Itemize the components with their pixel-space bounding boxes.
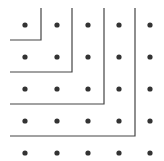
dot-r3-c2 (54, 86, 59, 91)
dot-r2-c2 (54, 54, 59, 59)
dot-r4-c4 (116, 118, 121, 123)
dot-r5-c4 (116, 150, 121, 155)
dot-r1-c2 (54, 22, 59, 27)
dot-r2-c3 (85, 54, 90, 59)
dot-r4-c1 (22, 118, 27, 123)
dot-r5-c2 (54, 150, 59, 155)
dot-r2-c5 (147, 54, 152, 59)
dot-r3-c5 (147, 86, 152, 91)
dot-r4-c3 (85, 118, 90, 123)
dot-r4-c2 (54, 118, 59, 123)
dot-r5-c5 (147, 150, 152, 155)
dot-r1-c1 (22, 22, 27, 27)
dot-r5-c1 (22, 150, 27, 155)
dot-r1-c4 (116, 22, 121, 27)
dot-r2-c1 (22, 54, 27, 59)
dot-r2-c4 (116, 54, 121, 59)
dot-r5-c3 (85, 150, 90, 155)
dot-grid-diagram (0, 0, 164, 161)
dot-r3-c1 (22, 86, 27, 91)
dot-r3-c4 (116, 86, 121, 91)
dot-r4-c5 (147, 118, 152, 123)
dot-r1-c3 (85, 22, 90, 27)
dot-r3-c3 (85, 86, 90, 91)
dot-r1-c5 (147, 22, 152, 27)
